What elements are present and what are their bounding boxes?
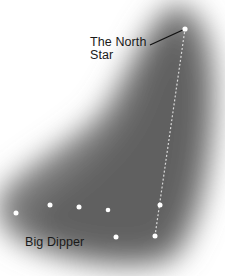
star-alioth-icon <box>77 205 82 210</box>
north-star-icon <box>182 26 187 31</box>
big-dipper-label: Big Dipper <box>25 236 84 249</box>
star-megrez-icon <box>106 208 111 213</box>
north-star-label: The North Star <box>90 36 150 62</box>
star-dubhe-icon <box>158 203 163 208</box>
star-phecda-icon <box>114 235 119 240</box>
star-merak-icon <box>153 234 158 239</box>
star-alkaid-icon <box>14 211 19 216</box>
north-star-label-line2: Star <box>90 49 150 62</box>
star-mizar-icon <box>48 203 53 208</box>
